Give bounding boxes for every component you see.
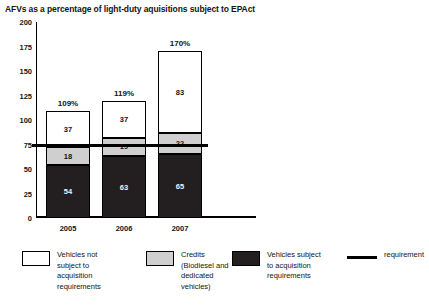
legend-item-requirement[interactable]: requirement	[347, 250, 429, 261]
legend-label-requirement: requirement	[384, 250, 424, 261]
y-tick-125: 125	[19, 91, 32, 100]
x-tick-2006: 2006	[116, 224, 133, 233]
bar-total-2007: 170%	[170, 39, 190, 48]
bar-segment-vehicles-subject-2007[interactable]: 65	[158, 154, 202, 218]
legend-swatch-line-icon	[347, 256, 377, 259]
bar-segment-vehicles-subject-2006[interactable]: 63	[102, 156, 146, 218]
y-tick-200: 200	[19, 18, 32, 27]
legend-label-vehicles-not-subject: Vehicles not subject to acquisition requ…	[57, 250, 101, 292]
y-tick-75: 75	[24, 140, 32, 149]
legend-swatch-dark-icon	[232, 251, 260, 266]
y-tick-25: 25	[24, 189, 32, 198]
y-tick-100: 100	[19, 116, 32, 125]
x-tick-2007: 2007	[172, 224, 189, 233]
legend-item-vehicles-subject[interactable]: Vehicles subject to acquisition requirem…	[232, 250, 362, 282]
bar-segment-vehicles-not-subject-2006[interactable]: 37	[102, 101, 146, 137]
legend: Vehicles not subject to acquisition requ…	[22, 250, 414, 302]
page-title: AFVs as a percentage of light-duty aquis…	[5, 4, 255, 14]
bar-total-2005: 109%	[58, 99, 78, 108]
bar-stack-2005: 54 18 37	[46, 111, 90, 218]
bar-segment-vehicles-subject-2005[interactable]: 54	[46, 165, 90, 218]
x-tick-2005: 2005	[60, 224, 77, 233]
legend-item-vehicles-not-subject[interactable]: Vehicles not subject to acquisition requ…	[22, 250, 142, 292]
legend-label-credits: Credits (Biodiesel and dedicated vehicle…	[181, 250, 229, 292]
bar-segment-credits-2005[interactable]: 18	[46, 147, 90, 165]
y-tick-175: 175	[19, 42, 32, 51]
bar-total-2006: 119%	[114, 89, 134, 98]
bar-segment-vehicles-not-subject-2005[interactable]: 37	[46, 111, 90, 147]
legend-swatch-white-icon	[22, 251, 50, 266]
y-tick-0: 0	[28, 214, 32, 223]
y-tick-150: 150	[19, 67, 32, 76]
bar-stack-2007: 65 22 83	[158, 51, 202, 218]
y-tick-50: 50	[24, 165, 32, 174]
bar-segment-credits-2006[interactable]: 19	[102, 138, 146, 157]
legend-label-vehicles-subject: Vehicles subject to acquisition requirem…	[267, 250, 321, 282]
y-axis-line	[36, 22, 37, 218]
plot-area: 200 175 150 125 100 75 50 25 0 109% 54 1…	[36, 22, 204, 218]
requirement-reference-line	[32, 144, 208, 147]
bar-segment-vehicles-not-subject-2007[interactable]: 83	[158, 51, 202, 132]
legend-swatch-gray-icon	[146, 251, 174, 266]
bar-stack-2006: 63 19 37	[102, 101, 146, 218]
